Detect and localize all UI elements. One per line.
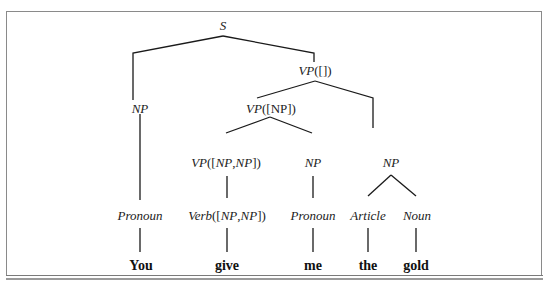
node-bracket: ]) (287, 101, 296, 116)
node-bracket: ]) (252, 155, 261, 170)
node-head: VP (191, 155, 207, 170)
word-give: give (215, 258, 239, 274)
node-np-indirect: NP (305, 155, 322, 171)
node-article: Article (350, 208, 385, 224)
node-head: VP (246, 101, 262, 116)
node-pronoun-2: Pronoun (290, 208, 335, 224)
word-gold: gold (403, 258, 429, 274)
node-head: VP (298, 63, 314, 78)
node-arg: NP (221, 208, 238, 223)
node-vp-np: VP([NP]) (246, 101, 296, 117)
node-arg: ([]) (314, 63, 331, 78)
node-np-direct: NP (383, 155, 400, 171)
node-vp-empty: VP([]) (298, 63, 331, 79)
node-arg: NP (216, 155, 233, 170)
node-bracket: ([ (212, 208, 221, 223)
node-bracket: ([ (262, 101, 271, 116)
node-pronoun-1: Pronoun (117, 208, 162, 224)
node-vp-np-np: VP([NP,NP]) (191, 155, 261, 171)
node-verb: Verb([NP,NP]) (188, 208, 266, 224)
word-me: me (304, 258, 322, 274)
node-s: S (220, 18, 227, 34)
word-the: the (359, 258, 378, 274)
tree-edges (0, 0, 548, 287)
node-arg: NP (236, 155, 253, 170)
node-head: Verb (188, 208, 212, 223)
word-you: You (129, 258, 152, 274)
node-noun: Noun (403, 208, 431, 224)
node-arg: NP (271, 101, 288, 116)
node-bracket: ]) (257, 208, 266, 223)
node-arg: NP (241, 208, 258, 223)
node-np-subject: NP (132, 101, 149, 117)
node-bracket: ([ (207, 155, 216, 170)
